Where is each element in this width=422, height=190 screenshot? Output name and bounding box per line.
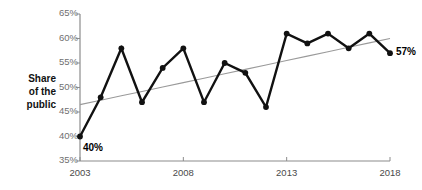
data-line <box>80 34 390 137</box>
end-value-annotation: 57% <box>396 46 416 57</box>
data-point <box>77 134 83 140</box>
data-point <box>284 31 290 37</box>
data-point <box>263 104 269 110</box>
data-point <box>325 31 331 37</box>
data-point <box>387 50 393 56</box>
data-point <box>346 45 352 51</box>
trend-line <box>80 39 390 105</box>
data-point <box>222 60 228 66</box>
axes <box>76 14 390 161</box>
data-point <box>201 99 207 105</box>
data-point <box>139 99 145 105</box>
data-point <box>304 41 310 47</box>
data-point <box>366 31 372 37</box>
start-value-annotation: 40% <box>83 142 103 153</box>
data-point <box>118 45 124 51</box>
data-point <box>98 94 104 100</box>
data-point <box>180 45 186 51</box>
data-point <box>160 65 166 71</box>
plot-area <box>0 0 422 190</box>
data-point <box>242 70 248 76</box>
line-chart: Share of the public 65%60%55%50%45%40%35… <box>0 0 422 190</box>
